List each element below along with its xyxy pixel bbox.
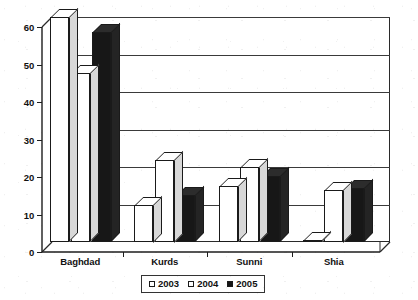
bar-side-face <box>364 188 373 242</box>
bar <box>219 186 238 242</box>
bar-front-face <box>134 205 153 243</box>
y-axis-tick <box>37 215 42 216</box>
bar-side-face <box>90 73 99 242</box>
bar <box>50 17 69 242</box>
bar-front-face <box>50 17 69 242</box>
legend-item: 2003 <box>149 278 179 289</box>
bar <box>134 205 153 243</box>
x-axis-category-label: Kurds <box>125 256 205 267</box>
legend-swatch-icon <box>227 281 233 287</box>
y-axis-tick <box>37 177 42 178</box>
legend-item: 2005 <box>227 278 257 289</box>
x-axis-category-label: Shia <box>294 256 374 267</box>
bar-side-face <box>280 176 289 242</box>
y-axis-tick <box>37 102 42 103</box>
bar-side-face <box>322 240 331 242</box>
bar-front-face <box>303 240 322 242</box>
y-axis-tick-label: 10 <box>8 209 34 220</box>
legend-swatch-icon <box>149 281 155 287</box>
y-axis-tick-label: 40 <box>8 97 34 108</box>
y-axis-tick <box>37 65 42 66</box>
y-axis-tick-label: 30 <box>8 134 34 145</box>
y-axis-tick-label: 60 <box>8 22 34 33</box>
bar-chart: Annual percentage 0102030405060 BaghdadK… <box>0 0 418 300</box>
legend-label: 2005 <box>236 278 257 289</box>
x-axis-category-label: Sunni <box>209 256 289 267</box>
bar-side-face <box>111 32 120 242</box>
bar-side-face <box>153 205 162 243</box>
bar <box>303 240 322 242</box>
y-axis-tick-label: 50 <box>8 59 34 70</box>
legend-label: 2003 <box>158 278 179 289</box>
bar-side-face <box>343 190 352 243</box>
bar-front-face <box>219 186 238 242</box>
bar-side-face <box>69 17 78 242</box>
bar-side-face <box>238 186 247 242</box>
y-axis-tick <box>37 140 42 141</box>
plot-area: 0102030405060 <box>42 17 390 252</box>
x-axis-category-label: Baghdad <box>40 256 120 267</box>
legend: 2003 2004 2005 <box>141 275 265 293</box>
y-axis-tick <box>37 27 42 28</box>
bar-side-face <box>174 160 183 243</box>
x-axis-tick <box>292 252 293 257</box>
bar-side-face <box>259 167 268 242</box>
y-axis-tick <box>37 252 42 253</box>
bar-side-face <box>195 195 204 242</box>
x-axis-tick <box>207 252 208 257</box>
legend-item: 2004 <box>188 278 218 289</box>
legend-swatch-icon <box>188 281 194 287</box>
x-axis-tick <box>123 252 124 257</box>
legend-label: 2004 <box>197 278 218 289</box>
y-axis-tick-label: 20 <box>8 172 34 183</box>
y-axis-tick-label: 0 <box>8 247 34 258</box>
